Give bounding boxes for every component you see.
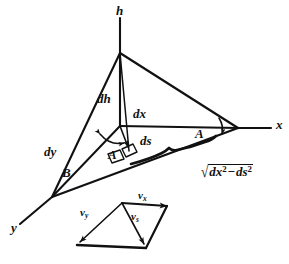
formula-term1-exp: 2: [222, 164, 226, 174]
angle-label-A-right: A: [195, 127, 204, 140]
parallelogram-bottom-edge: [77, 245, 146, 248]
segment-label-dh: dh: [97, 92, 111, 105]
y-axis-line: [20, 197, 52, 224]
vector-vx-arrow: [122, 203, 167, 206]
axis-label-y: y: [11, 221, 17, 234]
segment-label-ds: ds: [140, 134, 152, 147]
vector-label-vx: vx: [138, 190, 147, 202]
figure-canvas: h x y dh dx dy ds B A A √dx2−ds2 vx vy v…: [0, 0, 289, 264]
angle-A-right-arc: [219, 118, 223, 134]
axis-label-x: x: [276, 118, 283, 131]
formula-term2-base: ds: [236, 164, 248, 179]
axis-label-h: h: [116, 4, 123, 17]
radical-sign-icon: √: [201, 164, 209, 181]
angle-label-A-left: A: [108, 148, 117, 161]
base-horizontal-line: [120, 126, 238, 128]
formula-operator: −: [227, 164, 236, 179]
segment-label-dx: dx: [133, 107, 146, 120]
diagram-svg: [0, 0, 289, 264]
formula-term1-base: dx: [209, 164, 222, 179]
vector-label-vy: vy: [80, 207, 88, 219]
radical-group: √dx2−ds2: [200, 163, 253, 180]
vector-label-vs: vs: [131, 211, 139, 223]
formula-term2-exp: 2: [248, 164, 252, 174]
segment-label-dy: dy: [44, 145, 56, 158]
vector-vy-sub: y: [85, 211, 88, 220]
vector-vs-sub: s: [136, 215, 139, 224]
radicand: dx2−ds2: [208, 164, 253, 178]
formula-sqrt-dx2-minus-ds2: √dx2−ds2: [200, 163, 253, 180]
segment-label-B: B: [62, 166, 71, 179]
vector-vx-sub: x: [143, 194, 147, 203]
parallelogram-right-edge: [146, 206, 167, 248]
